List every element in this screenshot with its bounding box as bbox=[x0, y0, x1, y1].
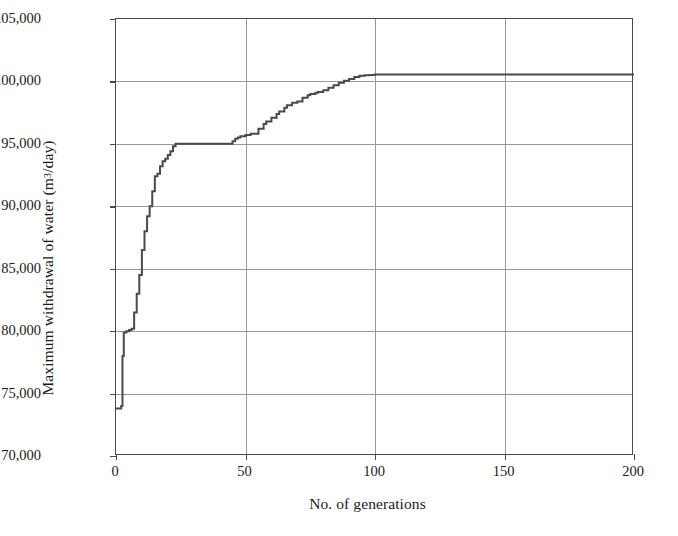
y-axis-tick-label: 1,05,000 bbox=[0, 10, 41, 27]
x-axis-title: No. of generations bbox=[95, 495, 640, 513]
y-axis-tick-label: 95,000 bbox=[0, 134, 41, 151]
x-axis-tick-label: 50 bbox=[200, 463, 290, 480]
y-axis-tick-label: 70,000 bbox=[0, 447, 41, 464]
chart-figure: Maximum withdrawal of water (m3/day) No.… bbox=[0, 0, 678, 536]
plot-area bbox=[115, 18, 633, 455]
x-axis-tick-label: 0 bbox=[70, 463, 160, 480]
y-axis-tick-label: 1,00,000 bbox=[0, 72, 41, 89]
y-axis-tick-label: 80,000 bbox=[0, 322, 41, 339]
series-line-path bbox=[116, 75, 634, 409]
y-axis-tick bbox=[110, 456, 116, 457]
y-axis-tick-label: 90,000 bbox=[0, 197, 41, 214]
series-path-svg bbox=[116, 19, 634, 456]
x-axis-tick-label: 100 bbox=[329, 463, 419, 480]
y-axis-title-prefix: Maximum withdrawal of water (m bbox=[39, 178, 57, 395]
x-axis-tick-label: 200 bbox=[588, 463, 678, 480]
y-axis-title-suffix: /day) bbox=[39, 140, 57, 172]
x-axis-tick bbox=[634, 454, 635, 460]
y-axis-tick-label: 75,000 bbox=[0, 384, 41, 401]
y-axis-tick-label: 85,000 bbox=[0, 259, 41, 276]
data-series-line bbox=[116, 19, 632, 454]
x-axis-tick-label: 150 bbox=[459, 463, 549, 480]
